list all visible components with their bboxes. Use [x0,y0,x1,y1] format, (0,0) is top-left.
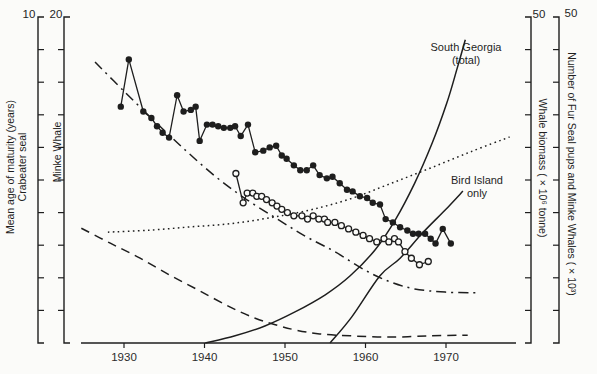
series-line-dashed-curve [81,228,467,337]
right-biomass-axis-title: Whale biomass ( × 10⁶ tonne) [537,99,549,238]
marker-filled-circle [428,235,434,241]
marker-open-circle [360,232,366,238]
marker-filled-circle [283,156,289,162]
marker-open-circle [408,255,414,261]
marker-filled-circle [192,103,198,109]
marker-open-circle [386,239,392,245]
marker-open-circle [374,239,380,245]
marker-filled-circle [377,201,383,207]
biomass-axis-title-line: Whale biomass ( × 10⁶ tonne) [537,99,549,238]
marker-open-circle [233,170,239,176]
marker-filled-circle [404,227,410,233]
marker-filled-circle [221,125,227,131]
marker-filled-circle [159,130,165,136]
marker-filled-circle [324,175,330,181]
axis-left-minke [64,17,70,343]
marker-filled-circle [204,121,210,127]
annotation-south-georgia: South Georgia (total) [431,41,502,66]
marker-filled-circle [245,121,251,127]
marker-filled-circle [337,180,343,186]
marker-open-circle [332,219,338,225]
marker-filled-circle [174,92,180,98]
marker-filled-circle [410,231,416,237]
marker-filled-circle [364,195,370,201]
marker-filled-circle [329,174,335,180]
marker-filled-circle [260,147,266,153]
marker-filled-circle [154,123,160,129]
marker-filled-circle [310,162,316,168]
marker-filled-circle [390,219,396,225]
marker-filled-circle [148,115,154,121]
marker-open-circle [338,223,344,229]
marker-filled-circle [448,240,454,246]
x-tick-label: 1950 [272,351,298,363]
marker-filled-circle [415,231,421,237]
marker-filled-circle [209,121,215,127]
left-minke-axis-top-value: 20 [50,8,63,20]
marker-filled-circle [252,149,258,155]
x-tick-label: 1970 [433,351,459,363]
marker-open-circle [425,259,431,265]
marker-filled-circle [140,108,146,114]
marker-filled-circle [344,187,350,193]
marker-filled-circle [297,167,303,173]
marker-filled-circle [267,144,273,150]
right-counts-axis-title: Number of Fur Seal pups and Minke Whales… [566,52,578,296]
marker-filled-circle [357,193,363,199]
right-counts-axis-top-value: 50 [565,7,578,19]
left-crabeater-axis-title: Mean age of maturity (years) Crabeater s… [4,100,28,234]
marker-filled-circle [273,143,279,149]
marker-filled-circle [382,216,388,222]
figure-root: 19301940195019601970 10 20 50 50 Mean ag… [0,0,597,374]
marker-open-circle [353,229,359,235]
annotation-bird-island-line1: Bird Island [451,174,503,187]
marker-open-circle [291,213,297,219]
marker-open-circle [396,239,402,245]
marker-open-circle [279,206,285,212]
left-crabeater-axis-top-value: 10 [23,8,36,20]
marker-open-circle [402,249,408,255]
marker-filled-circle [232,123,238,129]
marker-filled-circle [215,123,221,129]
marker-filled-circle [166,134,172,140]
marker-filled-circle [440,226,446,232]
marker-filled-circle [291,162,297,168]
marker-open-circle [263,197,269,203]
x-tick-label: 1940 [192,351,218,363]
right-biomass-axis-top-value: 50 [533,8,546,20]
marker-open-circle [299,213,305,219]
x-tick-label: 1960 [353,351,379,363]
annotation-bird-island: Bird Island only [451,174,503,199]
marker-open-circle [240,200,246,206]
x-tick-label: 1930 [111,351,137,363]
marker-filled-circle [432,240,438,246]
left-axis-title-line1: Mean age of maturity (years) [4,100,16,234]
marker-filled-circle [304,167,310,173]
marker-filled-circle [126,56,132,62]
chart-canvas: 19301940195019601970 [0,0,597,374]
marker-filled-circle [118,103,124,109]
annotation-south-georgia-line1: South Georgia [431,41,502,54]
marker-open-circle [305,216,311,222]
marker-filled-circle [196,138,202,144]
marker-open-circle [346,226,352,232]
series-line-fur-seal-pups-bird-island-only [330,191,463,343]
series-line-minke-whale-age-at-maturity [121,59,451,243]
marker-open-circle [310,213,316,219]
marker-open-circle [325,219,331,225]
marker-filled-circle [397,224,403,230]
marker-open-circle [367,236,373,242]
annotation-bird-island-line2: only [451,186,503,199]
series-line-crabeater-seal-age-at-maturity [236,173,428,264]
minke-axis-title-line: Minke Whale [51,122,63,183]
left-minke-axis-title: Minke Whale [51,122,63,183]
marker-filled-circle [180,108,186,114]
marker-filled-circle [316,172,322,178]
marker-filled-circle [349,188,355,194]
counts-axis-title-line: Number of Fur Seal pups and Minke Whales… [566,52,578,296]
marker-filled-circle [422,231,428,237]
marker-open-circle [416,262,422,268]
left-axis-title-line2: Crabeater seal [16,100,28,234]
marker-filled-circle [238,133,244,139]
annotation-south-georgia-line2: (total) [431,53,502,66]
